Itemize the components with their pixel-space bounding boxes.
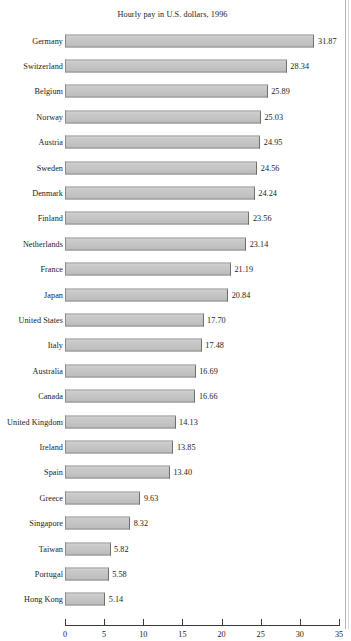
bar-row: France21.19	[0, 257, 345, 282]
category-label: Denmark	[32, 189, 63, 198]
bar-row: Portugal5.58	[0, 561, 345, 586]
bar-value-label: 5.58	[112, 569, 127, 578]
bar	[65, 491, 140, 504]
bar-value-label: 17.70	[207, 315, 226, 324]
bar	[65, 593, 105, 606]
bar	[65, 364, 196, 377]
bar	[65, 187, 255, 200]
bar-row: Netherlands23.14	[0, 231, 345, 256]
bar	[65, 339, 202, 352]
category-label: Hong Kong	[24, 595, 63, 604]
bar-row: Sweden24.56	[0, 155, 345, 180]
bar-value-label: 9.63	[144, 493, 159, 502]
x-axis-tick-label: 10	[139, 630, 147, 639]
bar-row: Finland23.56	[0, 206, 345, 231]
x-axis-tick-label: 25	[257, 630, 265, 639]
page-edge-inner	[348, 0, 349, 629]
x-axis-tick	[143, 619, 144, 626]
bar-value-label: 8.32	[134, 519, 149, 528]
bar-row: Australia16.69	[0, 358, 345, 383]
bar-row: Taiwan5.82	[0, 536, 345, 561]
x-axis-tick	[300, 619, 301, 626]
category-label: France	[40, 265, 63, 274]
bar-row: Singapore8.32	[0, 510, 345, 535]
bar-row: Greece9.63	[0, 485, 345, 510]
bar-row: Italy17.48	[0, 333, 345, 358]
bar-value-label: 13.40	[173, 468, 192, 477]
category-label: Taiwan	[39, 544, 63, 553]
category-label: Singapore	[29, 519, 63, 528]
category-label: Greece	[40, 493, 63, 502]
bar-value-label: 20.84	[232, 290, 251, 299]
bar-value-label: 31.87	[318, 36, 337, 45]
bar-value-label: 25.89	[271, 87, 290, 96]
x-axis-tick-label: 20	[217, 630, 225, 639]
category-label: Ireland	[39, 442, 63, 451]
bar-value-label: 16.66	[199, 392, 218, 401]
bar	[65, 136, 260, 149]
category-label: Netherlands	[23, 239, 63, 248]
bar-value-label: 24.24	[258, 189, 277, 198]
bar-value-label: 28.34	[290, 62, 309, 71]
category-label: Sweden	[37, 163, 63, 172]
bar	[65, 85, 268, 98]
bar	[65, 517, 130, 530]
bar-value-label: 24.95	[264, 138, 283, 147]
bar-value-label: 24.56	[261, 163, 280, 172]
bar-row: Norway25.03	[0, 104, 345, 129]
bar-chart: Hourly pay in U.S. dollars, 1996 Germany…	[0, 0, 345, 629]
bar-row: Austria24.95	[0, 130, 345, 155]
category-label: Germany	[32, 36, 63, 45]
x-axis-tick-label: 5	[102, 630, 106, 639]
category-label: Belgium	[34, 87, 63, 96]
category-label: Japan	[44, 290, 63, 299]
bar-value-label: 21.19	[234, 265, 253, 274]
x-axis-tick	[339, 619, 340, 626]
x-axis-tick	[261, 619, 262, 626]
x-axis-tick	[104, 619, 105, 626]
bar	[65, 567, 109, 580]
bar-value-label: 23.56	[253, 214, 272, 223]
bar-row: Spain13.40	[0, 460, 345, 485]
x-axis-tick	[222, 619, 223, 626]
bar-value-label: 5.82	[114, 544, 129, 553]
chart-plot-area: Germany31.87Switzerland28.34Belgium25.89…	[0, 28, 345, 612]
bar-row: Denmark24.24	[0, 180, 345, 205]
bar-value-label: 16.69	[199, 366, 218, 375]
category-label: Australia	[33, 366, 63, 375]
bar	[65, 34, 314, 47]
category-label: Switzerland	[23, 62, 63, 71]
bar	[65, 263, 231, 276]
bar-row: Japan20.84	[0, 282, 345, 307]
bar	[65, 440, 173, 453]
bar-value-label: 5.14	[109, 595, 124, 604]
chart-title: Hourly pay in U.S. dollars, 1996	[0, 10, 345, 19]
category-label: United States	[18, 315, 63, 324]
bar	[65, 390, 195, 403]
category-label: Canada	[38, 392, 63, 401]
bar	[65, 237, 246, 250]
x-axis-tick-label: 30	[296, 630, 304, 639]
bar	[65, 466, 170, 479]
bar	[65, 60, 287, 73]
bar-row: Switzerland28.34	[0, 53, 345, 78]
bar	[65, 110, 261, 123]
bar	[65, 542, 111, 555]
bar-value-label: 14.13	[179, 417, 198, 426]
bar	[65, 161, 257, 174]
bar-value-label: 17.48	[205, 341, 224, 350]
category-label: Finland	[38, 214, 63, 223]
bar-row: Canada16.66	[0, 383, 345, 408]
category-label: United Kingdom	[7, 417, 63, 426]
category-label: Spain	[44, 468, 63, 477]
page-edge-line	[345, 0, 346, 629]
bar	[65, 313, 204, 326]
category-label: Portugal	[35, 569, 63, 578]
bar-row: Belgium25.89	[0, 79, 345, 104]
x-axis-tick	[182, 619, 183, 626]
x-axis: 05101520253035	[0, 617, 345, 641]
category-label: Norway	[36, 112, 63, 121]
bar-row: Ireland13.85	[0, 434, 345, 459]
bar-row: Hong Kong5.14	[0, 587, 345, 612]
category-label: Austria	[39, 138, 63, 147]
